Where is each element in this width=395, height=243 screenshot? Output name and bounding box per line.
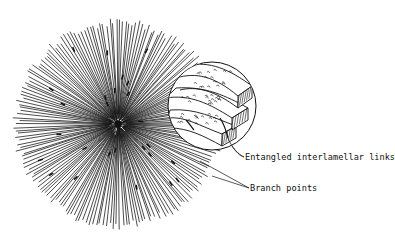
label-entangled-interlamellar-links: Entangled interlamellar links — [245, 152, 395, 162]
label-branch-points: Branch points — [250, 183, 317, 193]
